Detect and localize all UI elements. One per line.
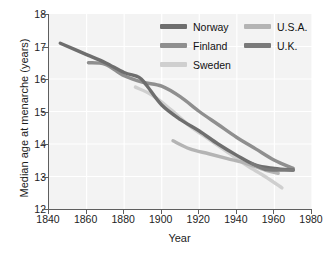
legend-item-finland[interactable]: Finland: [160, 36, 231, 55]
legend-label: Finland: [193, 40, 227, 52]
legend-swatch-icon: [160, 24, 187, 29]
legend-column-right: U.S.A.U.K.: [244, 17, 307, 55]
line-chart: Median age at menarche (years) Year 1213…: [0, 0, 331, 255]
legend-column-left: NorwayFinlandSweden: [160, 17, 231, 74]
x-axis-label: Year: [48, 232, 311, 244]
legend-item-norway[interactable]: Norway: [160, 17, 231, 36]
x-tick-label: 1960: [262, 213, 285, 225]
legend-swatch-icon: [160, 62, 187, 67]
x-tick-label: 1980: [299, 213, 322, 225]
legend-label: U.S.A.: [277, 21, 307, 33]
x-tick-label: 1880: [111, 213, 134, 225]
x-tick-label: 1860: [74, 213, 97, 225]
legend-label: U.K.: [277, 40, 297, 52]
legend-label: Sweden: [193, 59, 231, 71]
legend-item-sweden[interactable]: Sweden: [160, 55, 231, 74]
legend-swatch-icon: [244, 24, 271, 29]
legend-item-uk[interactable]: U.K.: [244, 36, 307, 55]
legend-item-usa[interactable]: U.S.A.: [244, 17, 307, 36]
legend-swatch-icon: [244, 43, 271, 48]
legend-label: Norway: [193, 21, 229, 33]
x-tick-label: 1920: [187, 213, 210, 225]
legend-swatch-icon: [160, 43, 187, 48]
x-tick-label: 1940: [224, 213, 247, 225]
x-tick-label: 1900: [149, 213, 172, 225]
x-tick-label: 1840: [36, 213, 59, 225]
